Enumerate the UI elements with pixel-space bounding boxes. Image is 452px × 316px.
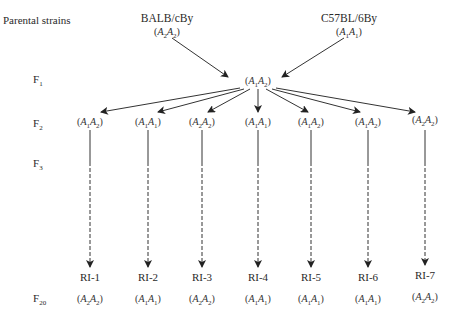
ri-7-label: RI-7	[415, 269, 435, 281]
f1-to-f2-arrows	[101, 88, 415, 112]
label-parental-strains: Parental strains	[3, 14, 71, 26]
ri-1-label: RI-1	[80, 271, 100, 283]
label-f3: F3	[33, 157, 43, 172]
parent-balb-name: BALB/cBy	[141, 12, 193, 25]
parent-balb: BALB/cBy (A2A2)	[141, 12, 193, 43]
ri-6-label: RI-6	[358, 271, 378, 283]
f20-genotype-5: (A1A1)	[298, 293, 324, 307]
ri-4-label: RI-4	[248, 271, 268, 283]
label-f3-sub: 3	[39, 164, 43, 172]
f2-genotype-6: (A1A2)	[355, 116, 381, 130]
label-f20: F20	[33, 292, 46, 307]
arrow-balb-to-f1	[172, 38, 228, 77]
label-f20-sub: 20	[39, 299, 46, 307]
ri-3-label: RI-3	[192, 271, 212, 283]
f2-genotype-7: (A2A2)	[412, 114, 438, 128]
f2-genotype-1: (A1A2)	[77, 116, 103, 130]
f20-genotype-2: (A1A1)	[135, 293, 161, 307]
f20-genotype-6: (A1A1)	[355, 293, 381, 307]
f20-genotype-3: (A2A2)	[189, 293, 215, 307]
parent-balb-genotype: (A2A2)	[141, 25, 193, 43]
f2-genotype-2: (A1A1)	[135, 116, 161, 130]
ri-2-label: RI-2	[138, 271, 158, 283]
arrow-layer	[0, 0, 452, 316]
f2-genotype-4: (A1A1)	[245, 116, 271, 130]
arrow-c57-to-f1	[282, 38, 344, 77]
label-f1-sub: 1	[39, 80, 43, 88]
f2-genotype-5: (A1A2)	[298, 116, 324, 130]
parent-c57bl-name: C57BL/6By	[321, 12, 377, 25]
parent-c57bl-genotype: (A1A1)	[321, 25, 377, 43]
label-f2-sub: 2	[39, 124, 43, 132]
f20-genotype-4: (A1A1)	[245, 293, 271, 307]
f2-genotype-3: (A2A2)	[189, 116, 215, 130]
label-f2: F2	[33, 117, 43, 132]
f20-genotype-7: (A2A2)	[412, 291, 438, 305]
f20-genotype-1: (A2A2)	[77, 293, 103, 307]
label-f1: F1	[33, 73, 43, 88]
f1-genotype: (A1A2)	[245, 75, 271, 89]
f2-to-ri-lines	[90, 130, 425, 267]
ri-5-label: RI-5	[301, 271, 321, 283]
parent-c57bl: C57BL/6By (A1A1)	[321, 12, 377, 43]
